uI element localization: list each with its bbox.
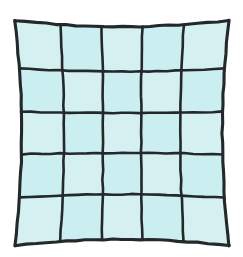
grid-cell [63,153,103,195]
grid-cell [103,153,142,194]
grid-cell [180,153,224,197]
grid-cell [180,112,222,154]
grid-cell [60,194,102,241]
barrel-grid-figure: Barrel distorted square grid [0,0,243,257]
grid-cell [60,25,102,72]
grid-cell [181,196,229,246]
grid-cell [102,194,142,239]
grid-cell [21,112,63,154]
grid-cell [19,68,63,112]
grid-cell [141,194,183,241]
grid-cell [19,153,63,197]
grid-cell [15,20,63,70]
grid-cell [103,72,142,113]
grid-line-vertical [101,27,103,240]
grid-line-vertical [141,27,143,240]
figure-root: Barrel distorted square grid [0,0,243,257]
grid-cell [181,20,229,70]
grid-cell [15,196,63,246]
grid-cell [103,113,141,153]
grid-cell [141,113,180,154]
grid-cell [141,70,181,112]
grid-cell [141,25,183,72]
grid-cell [63,70,103,112]
grid-cell [102,26,142,71]
grid-cells-layer [15,20,229,245]
grid-cell [180,68,224,112]
grid-line-horizontal [21,111,222,113]
grid-cell [64,113,103,154]
grid-cell [141,153,181,195]
